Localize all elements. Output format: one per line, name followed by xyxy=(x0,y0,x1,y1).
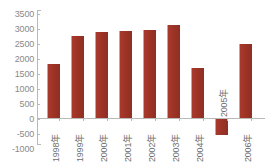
y-axis-tick-label: 3500 xyxy=(0,10,34,19)
x-axis-label-2006: 2006年 xyxy=(244,134,253,162)
y-axis-tick-label: 0 xyxy=(0,115,34,124)
x-axis-label-2003: 2003年 xyxy=(172,134,181,162)
y-axis-tick-label: -1000 xyxy=(0,145,34,154)
x-axis-label-2005: 2005年 xyxy=(220,89,229,117)
y-axis-tick-label: 1000 xyxy=(0,85,34,94)
y-axis-tick-label: 2000 xyxy=(0,55,34,64)
x-axis-category-labels: 1998年 1999年 2000年 2001年 2002年 2003年 2004… xyxy=(37,0,265,165)
y-axis-tick-label: -500 xyxy=(0,130,34,139)
x-axis-label-2002: 2002年 xyxy=(148,134,157,162)
y-axis-tick-label: 1500 xyxy=(0,70,34,79)
y-axis-tick-label: 3000 xyxy=(0,25,34,34)
y-axis-tick-label: 500 xyxy=(0,100,34,109)
y-axis-tick-label: 2500 xyxy=(0,40,34,49)
bar-chart: 3500 3000 2500 2000 1500 1000 500 0 -500… xyxy=(0,0,269,165)
y-axis-tick-labels: 3500 3000 2500 2000 1500 1000 500 0 -500… xyxy=(0,0,34,165)
x-axis-label-2001: 2001年 xyxy=(124,134,133,162)
x-axis-label-2004: 2004年 xyxy=(196,134,205,162)
x-axis-label-2000: 2000年 xyxy=(100,134,109,162)
x-axis-label-1999: 1999年 xyxy=(76,134,85,162)
x-axis-label-1998: 1998年 xyxy=(52,134,61,162)
